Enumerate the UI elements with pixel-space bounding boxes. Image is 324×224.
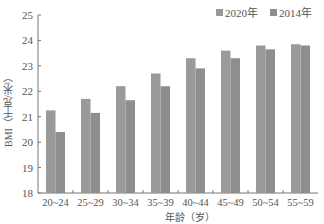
x-tick-label: 40~44 (182, 197, 209, 208)
x-tick-label: 35~39 (147, 197, 174, 208)
legend-swatch-icon (216, 9, 223, 16)
y-axis-label: BMI（千克/米²） (1, 40, 17, 180)
bar (196, 68, 206, 193)
bar (266, 49, 276, 193)
bar (56, 132, 66, 193)
legend: 2020年 2014年 (216, 4, 312, 20)
y-tick-label: 19 (22, 162, 34, 174)
y-tick-label: 25 (22, 9, 34, 21)
y-tick-label: 20 (22, 136, 34, 148)
bar (46, 110, 56, 193)
bar (256, 46, 266, 193)
x-tick-label: 55~59 (287, 197, 314, 208)
x-tick-label: 25~29 (77, 197, 104, 208)
bar (221, 51, 231, 193)
bar (81, 99, 91, 193)
x-tick-label: 45~49 (217, 197, 244, 208)
y-tick-label: 24 (22, 34, 34, 46)
x-tick-label: 50~54 (252, 197, 279, 208)
bar (231, 58, 241, 193)
bar (291, 44, 301, 193)
bar (91, 113, 101, 193)
legend-label: 2014年 (279, 4, 312, 20)
bar (151, 73, 161, 193)
bar (301, 46, 311, 193)
legend-swatch-icon (270, 9, 277, 16)
legend-label: 2020年 (225, 4, 258, 20)
bar (161, 86, 171, 193)
bar (186, 58, 196, 193)
y-tick-label: 18 (22, 187, 34, 199)
bar (116, 86, 126, 193)
y-tick-label: 23 (22, 60, 34, 72)
legend-item-2020: 2020年 (216, 4, 258, 20)
legend-item-2014: 2014年 (270, 4, 312, 20)
plot-area: 181920212223242520~2425~2930~3435~3940~4… (0, 0, 324, 224)
x-tick-label: 20~24 (42, 197, 69, 208)
y-tick-label: 21 (22, 111, 33, 123)
y-tick-label: 22 (22, 85, 33, 97)
bar (126, 100, 136, 193)
bmi-bar-chart: 181920212223242520~2425~2930~3435~3940~4… (0, 0, 324, 224)
x-tick-label: 30~34 (112, 197, 139, 208)
x-axis-label: 年龄（岁） (150, 209, 230, 224)
